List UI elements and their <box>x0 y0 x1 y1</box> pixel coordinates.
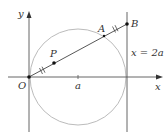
x-axis-arrow-icon <box>156 75 163 80</box>
point-O <box>27 75 31 79</box>
label-B: B <box>130 18 138 29</box>
label-P: P <box>49 48 57 59</box>
label-x: x <box>155 81 161 92</box>
label-A: A <box>97 23 105 34</box>
line-OB <box>29 24 127 77</box>
equal-mark-OP <box>40 67 46 74</box>
y-axis-arrow-icon <box>27 11 32 18</box>
label-y: y <box>17 8 24 19</box>
label-line-eq: x = 2a <box>131 47 164 58</box>
point-P <box>52 61 56 65</box>
point-A <box>103 35 105 37</box>
label-a: a <box>75 80 81 91</box>
label-O: O <box>18 80 26 91</box>
diagram-canvas: y x O a P A B x = 2a <box>0 0 168 140</box>
point-B <box>125 22 129 26</box>
